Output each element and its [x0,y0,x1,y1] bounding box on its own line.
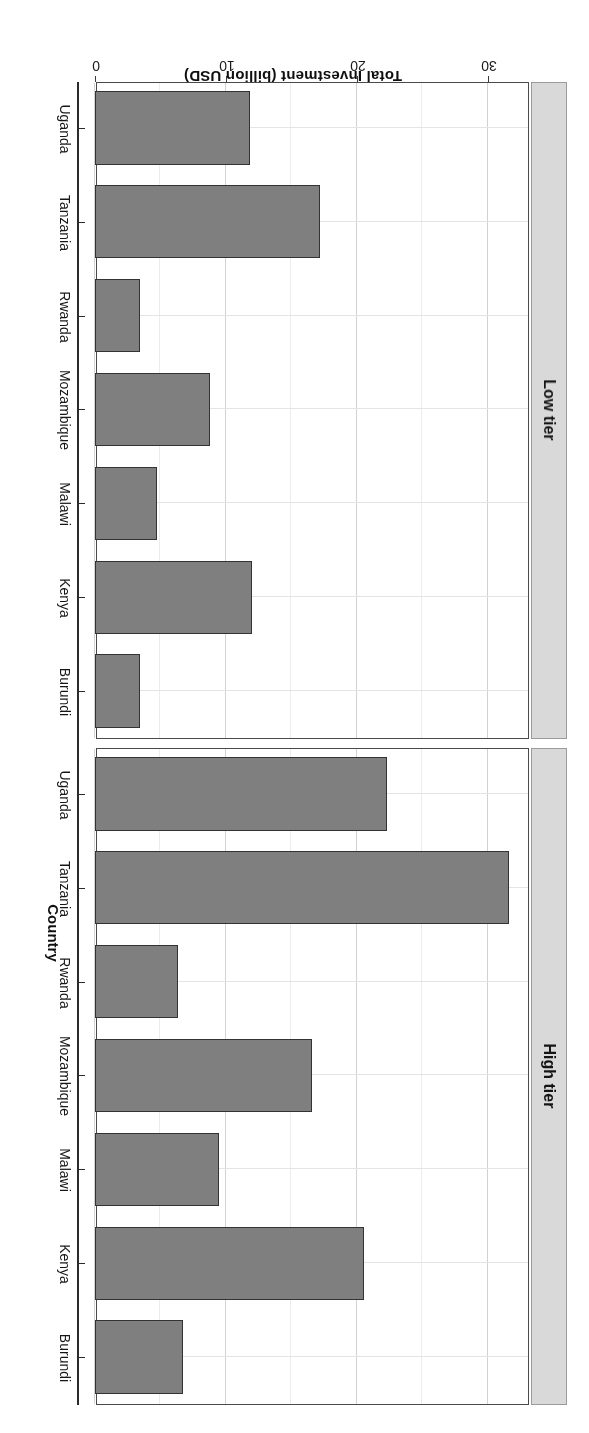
gridline-major [356,83,357,738]
facet-strip-label-high-tier: High tier [540,1044,558,1109]
bar [95,851,509,924]
bar [95,467,157,540]
category-axis-tick [78,1357,85,1358]
category-axis-tick-label: Mozambique [57,1036,73,1116]
value-axis-title: Total Investment (billion USD) [93,68,493,85]
bar [95,373,210,446]
gridline-minor [422,749,423,1404]
category-axis-tick [78,1263,85,1264]
gridline-category [97,502,528,503]
category-axis-tick-label: Kenya [57,1244,73,1284]
category-axis-tick [78,410,85,411]
gridline-major [356,749,357,1404]
category-axis-tick [78,794,85,795]
category-axis-tick [78,597,85,598]
gridline-major [487,83,488,738]
facet-strip-high-tier: High tier [531,748,567,1405]
category-axis-tick-label: Uganda [57,770,73,819]
bar [95,757,387,830]
category-axis-title: Country [45,833,62,1033]
bar [95,1133,219,1206]
category-axis-tick [78,222,85,223]
category-axis-tick-label: Burundi [57,1334,73,1382]
bar [95,91,250,164]
chart-figure-root: High tier Low tier 0102030 Total Investm… [0,0,589,1433]
gridline-minor [422,83,423,738]
panel-high-tier [96,748,529,1405]
category-axis-tick [78,503,85,504]
category-axis-tick [78,888,85,889]
panel-low-tier [96,82,529,739]
rotated-figure-wrapper: High tier Low tier 0102030 Total Investm… [0,0,589,1433]
category-axis-tick-label: Mozambique [57,370,73,450]
gridline-category [97,315,528,316]
gridline-major [487,749,488,1404]
gridline-minor [291,83,292,738]
category-axis-tick [78,982,85,983]
category-axis-tick-label: Malawi [57,483,73,527]
bar [95,1320,183,1393]
bar [95,654,140,727]
bar [95,945,178,1018]
gridline-category [97,690,528,691]
category-axis-tick [78,691,85,692]
bar [95,279,140,352]
category-axis-tick-label: Rwanda [57,291,73,342]
bar [95,185,320,258]
category-axis-tick [78,128,85,129]
category-axis-tick-label: Malawi [57,1149,73,1193]
category-axis-tick-label: Kenya [57,578,73,618]
bar [95,561,252,634]
bar [95,1039,312,1112]
bar [95,1227,364,1300]
gridline-major [225,83,226,738]
category-axis-tick-label: Uganda [57,104,73,153]
category-axis-tick [78,1169,85,1170]
category-axis-tick [78,316,85,317]
category-axis-tick-label: Tanzania [57,195,73,251]
facet-strip-label-low-tier: Low tier [540,380,558,441]
category-axis-tick [78,1076,85,1077]
category-axis-tick-label: Burundi [57,668,73,716]
facet-strip-low-tier: Low tier [531,82,567,739]
category-axis-line [77,82,79,1405]
